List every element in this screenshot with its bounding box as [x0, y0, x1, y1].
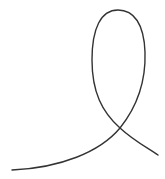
loop-curve-figure	[0, 0, 165, 179]
